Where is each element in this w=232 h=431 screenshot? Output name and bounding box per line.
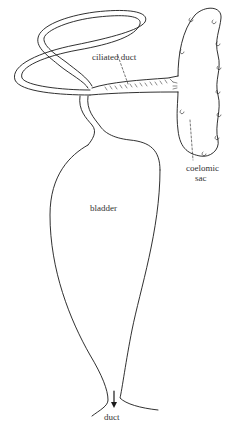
- label-bladder: bladder: [90, 203, 117, 213]
- sac-nuclei: [180, 18, 221, 156]
- bladder-left-wall: [50, 145, 108, 416]
- cilia: [105, 79, 177, 90]
- ciliated-duct-lower: [90, 92, 178, 95]
- bladder-right-wall: [120, 170, 160, 410]
- label-coelomic-sac: coelomic: [186, 163, 219, 173]
- label-ciliated-duct: ciliated duct: [92, 52, 136, 62]
- label-duct: duct: [104, 412, 120, 422]
- duct-arrow-head: [111, 402, 117, 408]
- bladder-neck-right: [88, 96, 160, 170]
- label-coelomic-sac-line2: sac: [195, 173, 207, 183]
- bladder-neck-left: [80, 96, 95, 145]
- nephridium-diagram: ciliated duct coelomic sac bladder duct: [0, 0, 232, 431]
- leader-coelomic-sac: [190, 120, 193, 160]
- coelomic-sac-outline: [177, 8, 221, 156]
- ciliated-duct-upper: [92, 76, 178, 88]
- diagram-drawing: [0, 0, 232, 431]
